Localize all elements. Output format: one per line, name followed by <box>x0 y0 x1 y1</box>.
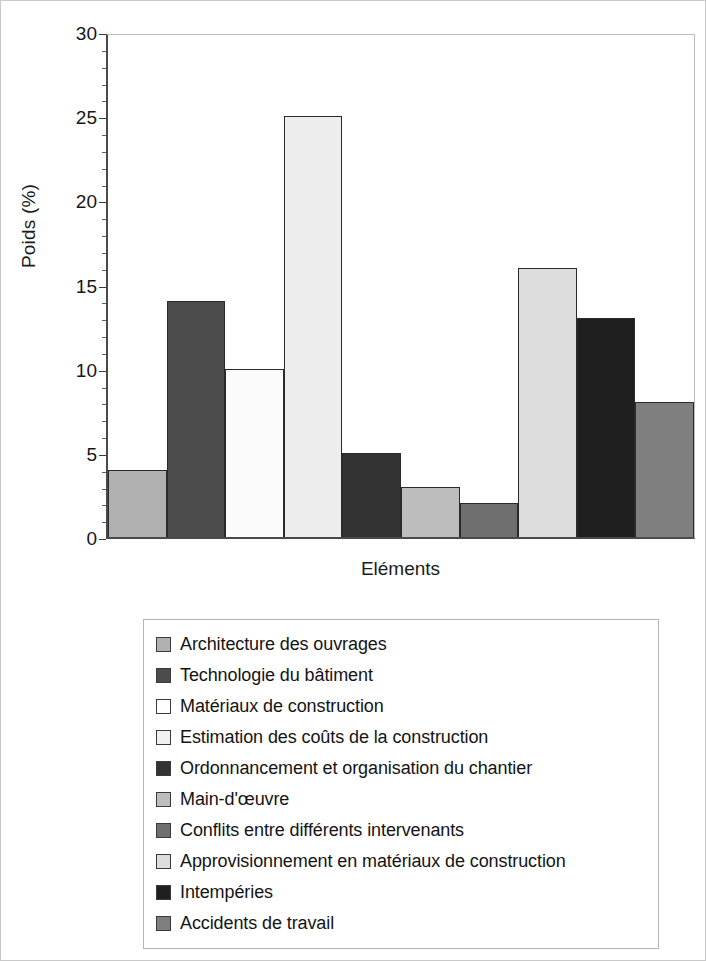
bar-chart-figure: Poids (%) 051015202530 Eléments Architec… <box>0 0 706 961</box>
y-axis-tick-label: 0 <box>51 528 97 550</box>
legend-item-label: Ordonnancement et organisation du chanti… <box>180 758 532 779</box>
legend-item-label: Accidents de travail <box>180 913 334 934</box>
y-axis-tick-mark <box>99 202 106 203</box>
x-axis-title: Eléments <box>106 558 695 580</box>
legend-swatch-icon <box>156 699 171 714</box>
legend-item: Ordonnancement et organisation du chanti… <box>156 753 648 784</box>
y-axis-tick-label: 30 <box>51 23 97 45</box>
bar <box>342 453 401 537</box>
bar <box>108 470 167 537</box>
bar <box>577 318 636 537</box>
y-axis-tick-label: 20 <box>51 191 97 213</box>
legend-item: Technologie du bâtiment <box>156 660 648 691</box>
legend-swatch-icon <box>156 854 171 869</box>
legend-item: Matériaux de construction <box>156 691 648 722</box>
y-axis-tick-label: 10 <box>51 360 97 382</box>
legend-swatch-icon <box>156 916 171 931</box>
bar-series <box>108 35 694 537</box>
bar <box>460 503 519 537</box>
y-axis-tick-mark <box>99 287 106 288</box>
legend-swatch-icon <box>156 885 171 900</box>
bar <box>225 369 284 537</box>
legend-item: Estimation des coûts de la construction <box>156 722 648 753</box>
legend-item-label: Architecture des ouvrages <box>180 634 387 655</box>
bar <box>167 301 226 537</box>
legend-item-label: Approvisionnement en matériaux de constr… <box>180 851 566 872</box>
y-axis-tick-mark <box>99 34 106 35</box>
legend-item: Architecture des ouvrages <box>156 629 648 660</box>
y-axis-tick-mark <box>99 455 106 456</box>
legend-item: Conflits entre différents intervenants <box>156 815 648 846</box>
y-axis-tick-labels: 051015202530 <box>47 1 97 961</box>
bar <box>284 116 343 537</box>
legend-item-label: Intempéries <box>180 882 273 903</box>
y-axis-tick-label: 15 <box>51 276 97 298</box>
legend-swatch-icon <box>156 761 171 776</box>
bar <box>518 268 577 537</box>
legend-item-label: Main-d'œuvre <box>180 789 289 810</box>
legend-swatch-icon <box>156 668 171 683</box>
legend-item-label: Estimation des coûts de la construction <box>180 727 488 748</box>
legend-item: Main-d'œuvre <box>156 784 648 815</box>
legend-swatch-icon <box>156 730 171 745</box>
y-axis-tick-mark <box>99 118 106 119</box>
bar <box>401 487 460 538</box>
y-axis-tick-mark <box>99 539 106 540</box>
plot-area <box>106 34 695 539</box>
legend-item-label: Matériaux de construction <box>180 696 384 717</box>
chart-legend: Architecture des ouvragesTechnologie du … <box>143 619 659 949</box>
y-axis-tick-label: 5 <box>51 444 97 466</box>
bar <box>635 402 694 537</box>
legend-item: Intempéries <box>156 877 648 908</box>
y-axis-tick-label: 25 <box>51 107 97 129</box>
legend-item: Approvisionnement en matériaux de constr… <box>156 846 648 877</box>
legend-item: Accidents de travail <box>156 908 648 939</box>
y-axis-tick-mark <box>99 371 106 372</box>
legend-item-label: Technologie du bâtiment <box>180 665 373 686</box>
legend-swatch-icon <box>156 792 171 807</box>
legend-item-label: Conflits entre différents intervenants <box>180 820 464 841</box>
legend-swatch-icon <box>156 637 171 652</box>
legend-swatch-icon <box>156 823 171 838</box>
y-axis-title: Poids (%) <box>18 146 40 306</box>
